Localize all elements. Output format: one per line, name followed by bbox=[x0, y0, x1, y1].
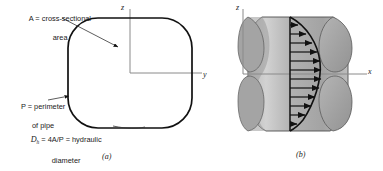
panel-b-z-axis-label: z bbox=[236, 3, 239, 12]
figure-container: A = cross-sectional area P = perimeter o… bbox=[0, 0, 383, 171]
hydraulic-diameter-label: Dh = 4A/P = hydraulic diameter bbox=[8, 125, 116, 171]
area-label-line1: A = cross-sectional bbox=[29, 14, 91, 23]
panel-b-caption: (b) bbox=[296, 150, 305, 159]
panel-b-x-axis-label: x bbox=[368, 67, 372, 76]
area-label-line2: area bbox=[53, 33, 68, 42]
panel-b-group bbox=[238, 9, 367, 131]
area-label: A = cross-sectional area bbox=[4, 4, 108, 52]
panel-a-caption: (a) bbox=[102, 152, 111, 161]
panel-a-z-axis-label: z bbox=[121, 3, 124, 12]
hydraulic-diameter-line2: diameter bbox=[52, 156, 81, 165]
hydraulic-diameter-formula: = 4A/P = hydraulic bbox=[39, 135, 101, 144]
panel-a-y-axis-label: y bbox=[203, 70, 207, 79]
perimeter-label-line1: P = perimeter bbox=[21, 102, 65, 111]
